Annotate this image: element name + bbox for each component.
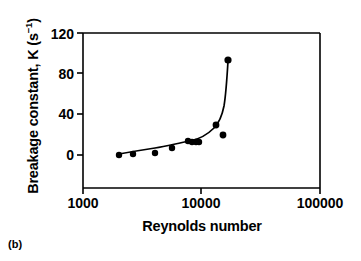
axis-frame: [83, 33, 320, 188]
data-point: [152, 150, 158, 156]
plot-area: [0, 0, 361, 261]
y-tick-marks: [77, 33, 83, 155]
data-point: [130, 151, 136, 157]
fit-curve: [119, 61, 228, 154]
data-point: [213, 122, 220, 129]
x-tick-marks: [83, 188, 320, 194]
figure-panel-b: Breakage constant, K (s−1) 120 80 40 0 1…: [0, 0, 361, 261]
data-point-group: [116, 56, 232, 158]
data-point: [196, 139, 202, 145]
data-point: [116, 152, 122, 158]
data-point: [224, 56, 231, 63]
data-point: [220, 132, 227, 139]
data-point: [169, 145, 175, 151]
